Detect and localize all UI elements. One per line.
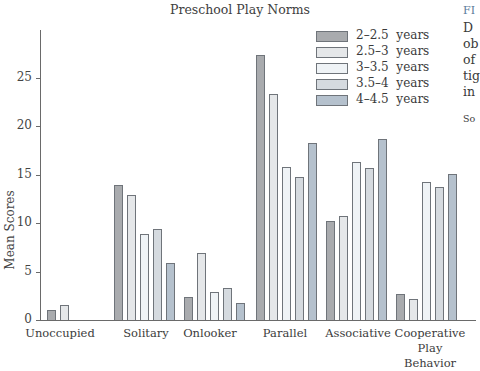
bar [295,177,304,320]
bar [197,253,206,320]
caption-source: So [463,113,475,124]
bar [409,299,418,320]
category-label: Onlooker [170,326,250,341]
bar [210,292,219,320]
x-axis [40,320,476,321]
legend-swatch [316,79,348,90]
bar [256,55,265,320]
bar [114,185,123,320]
legend-label: 3.5–4 years [356,76,429,90]
category-label: Unoccupied [20,326,100,341]
y-tick [36,126,41,127]
bar [448,174,457,320]
legend-label: 2–2.5 years [356,28,429,42]
chart-title: Preschool Play Norms [150,2,330,17]
bar [422,182,431,320]
legend-item: 3–3.5 years [316,62,476,74]
y-axis [40,30,41,321]
bar [166,263,175,320]
legend-swatch [316,63,348,74]
figure-caption-heading: FI [463,4,475,17]
bar [282,167,291,320]
bar [326,221,335,320]
category-label: Associative [318,326,398,341]
y-tick-label: 5 [0,264,32,278]
bar [236,303,245,320]
legend-swatch [316,95,348,106]
caption-line: of [463,52,475,67]
bar [396,294,405,320]
y-tick-label: 15 [0,167,32,181]
bar [365,168,374,320]
y-tick-label: 20 [0,118,32,132]
legend-label: 2.5–3 years [356,44,429,58]
bar [308,143,317,320]
caption-line: tig [463,68,480,83]
caption-line: D [463,20,473,35]
bar [269,94,278,320]
legend-label: 4–4.5 years [356,92,429,106]
y-tick [36,272,41,273]
legend-item: 2–2.5 years [316,30,476,42]
bar [378,139,387,320]
legend-swatch [316,31,348,42]
legend-item: 4–4.5 years [316,94,476,106]
category-label: CooperativePlay Behavior [390,326,470,371]
bar [223,288,232,320]
bar [153,229,162,320]
y-tick [36,320,41,321]
y-axis-label: Mean Scores [3,190,17,270]
caption-line: ob [463,36,479,51]
category-label: Parallel [245,326,325,341]
y-tick [36,78,41,79]
legend-label: 3–3.5 years [356,60,429,74]
bar [60,305,69,320]
y-tick [36,175,41,176]
bar [339,216,348,320]
legend-item: 3.5–4 years [316,78,476,90]
bar [435,187,444,320]
legend-swatch [316,47,348,58]
y-tick [36,223,41,224]
bar [140,234,149,320]
y-tick-label: 10 [0,215,32,229]
bar [47,310,56,320]
bar [127,195,136,320]
y-tick-label: 25 [0,70,32,84]
bar [352,162,361,320]
bar [184,297,193,320]
legend-item: 2.5–3 years [316,46,476,58]
y-tick-label: 0 [0,312,32,326]
caption-line: in [463,84,475,99]
